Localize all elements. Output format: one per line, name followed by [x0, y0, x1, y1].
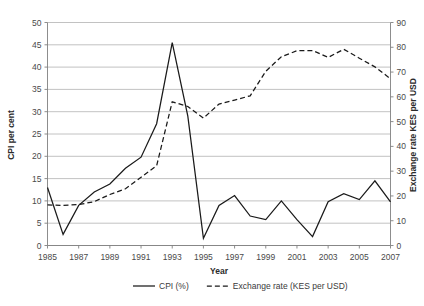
- y2-tick-marks: [391, 23, 394, 246]
- y2-tick-labels: 0102030405060708090: [397, 18, 407, 251]
- y2-tick-label: 20: [397, 191, 407, 201]
- y2-tick-label: 50: [397, 117, 407, 127]
- series-line-exchange-rate: [48, 49, 391, 205]
- y-axis-title: CPI per cent: [6, 110, 16, 160]
- y2-axis-title: Exchange rate KES per USD: [408, 78, 418, 192]
- x-tick-label: 1999: [256, 252, 275, 262]
- data-series-group: [48, 43, 391, 239]
- chart-container: 1985198719891991199319951997199920012003…: [0, 0, 424, 306]
- x-tick-label: 2001: [287, 252, 306, 262]
- y2-tick-label: 80: [397, 42, 407, 52]
- y-tick-label: 0: [37, 241, 42, 251]
- y-tick-labels: 05101520253035404550: [32, 18, 42, 251]
- x-tick-labels: 1985198719891991199319951997199920012003…: [38, 252, 400, 262]
- y-tick-label: 40: [32, 62, 42, 72]
- y2-tick-label: 90: [397, 18, 407, 28]
- x-tick-label: 1991: [132, 252, 151, 262]
- legend-label-cpi: CPI (%): [159, 281, 189, 291]
- y-tick-label: 10: [32, 196, 42, 206]
- x-tick-label: 1993: [163, 252, 182, 262]
- y2-tick-label: 70: [397, 67, 407, 77]
- series-line-cpi: [48, 43, 391, 239]
- legend-label-exchange-rate: Exchange rate (KES per USD): [233, 281, 348, 291]
- x-tick-label: 1995: [194, 252, 213, 262]
- y2-tick-label: 0: [397, 241, 402, 251]
- y2-tick-label: 10: [397, 216, 407, 226]
- dual-axis-line-chart: 1985198719891991199319951997199920012003…: [0, 0, 424, 306]
- x-axis-title: Year: [210, 266, 229, 276]
- chart-legend: CPI (%)Exchange rate (KES per USD): [133, 281, 348, 291]
- y-tick-label: 35: [32, 84, 42, 94]
- x-tick-label: 1989: [100, 252, 119, 262]
- gridlines-group: [48, 23, 391, 246]
- y2-tick-label: 40: [397, 141, 407, 151]
- x-tick-label: 1987: [69, 252, 88, 262]
- y2-tick-label: 60: [397, 92, 407, 102]
- y-tick-label: 45: [32, 40, 42, 50]
- x-tick-label: 2007: [381, 252, 400, 262]
- x-tick-label: 2005: [350, 252, 369, 262]
- y-tick-label: 30: [32, 107, 42, 117]
- x-tick-label: 2003: [319, 252, 338, 262]
- y-tick-label: 15: [32, 174, 42, 184]
- y-tick-label: 20: [32, 151, 42, 161]
- y-tick-label: 25: [32, 129, 42, 139]
- y-tick-label: 50: [32, 18, 42, 28]
- x-tick-label: 1985: [38, 252, 57, 262]
- x-tick-label: 1997: [225, 252, 244, 262]
- y-tick-label: 5: [37, 218, 42, 228]
- y2-tick-label: 30: [397, 166, 407, 176]
